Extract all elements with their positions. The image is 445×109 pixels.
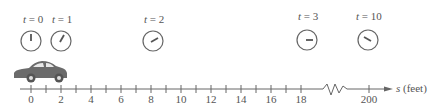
clock-t3: t = 3 — [297, 10, 319, 50]
clock-t1: t = 1 — [51, 13, 72, 51]
svg-text:t = 3: t = 3 — [298, 10, 319, 22]
car-icon — [14, 61, 67, 83]
position-axis: 024681012141618 200 s (feet) — [20, 82, 427, 105]
tick-label: 0 — [28, 93, 34, 105]
clock-label-eq: = 1 — [55, 13, 72, 25]
clock-label-eq: = 0 — [26, 13, 44, 25]
clock-group: t = 0 t = 1 t = 2 t = 3 t = 10 — [21, 10, 382, 51]
tick-label: 4 — [88, 93, 94, 105]
axis-label-unit: (feet) — [400, 82, 427, 95]
svg-text:t = 10: t = 10 — [356, 10, 382, 22]
axis-label: s (feet) — [396, 82, 427, 95]
axis-arrow-icon — [384, 87, 393, 92]
clock-label-eq: = 10 — [359, 10, 382, 22]
tick-label: 2 — [58, 93, 64, 105]
clock-label-eq: = 3 — [301, 10, 319, 22]
tick-label: 16 — [266, 93, 278, 105]
axis-ticks: 024681012141618 — [28, 85, 307, 105]
tick-label: 8 — [148, 93, 154, 105]
tick-label-far: 200 — [361, 93, 378, 105]
clock-t0: t = 0 — [21, 13, 44, 51]
svg-text:t = 1: t = 1 — [52, 13, 72, 25]
svg-text:t = 0: t = 0 — [23, 13, 44, 25]
clock-label-eq: = 2 — [147, 13, 164, 25]
position-diagram: t = 0 t = 1 t = 2 t = 3 t = 10 — [0, 0, 445, 109]
axis-break-zigzag — [323, 84, 350, 95]
tick-label: 18 — [296, 93, 308, 105]
clock-t10: t = 10 — [356, 10, 382, 50]
tick-label: 10 — [176, 93, 188, 105]
tick-label: 6 — [118, 93, 124, 105]
clock-t2: t = 2 — [143, 13, 164, 51]
tick-label: 14 — [236, 93, 248, 105]
tick-label: 12 — [206, 93, 217, 105]
svg-text:t = 2: t = 2 — [144, 13, 164, 25]
